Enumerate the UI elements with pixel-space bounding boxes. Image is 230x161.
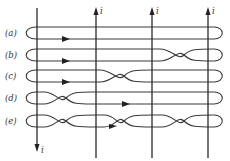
loop-label-d: (d): [5, 93, 17, 103]
loop-b: [26, 49, 222, 64]
arrow-up-icon: [150, 7, 155, 15]
arrow-up-icon: [94, 7, 99, 15]
loop-c: [26, 70, 222, 85]
arrow-right-icon: [62, 36, 70, 42]
arrow-right-icon: [62, 79, 70, 85]
loop-a: [26, 27, 222, 42]
loop-e: [26, 115, 222, 129]
current-label-3: i: [156, 6, 159, 16]
current-label-2: i: [100, 6, 103, 16]
arrow-right-icon: [62, 58, 70, 64]
arrow-down-icon: [35, 144, 40, 152]
current-loops-diagram: (a) (b) (c) (d) (e): [0, 0, 230, 161]
current-label-4: i: [212, 6, 215, 16]
current-label-1: i: [41, 145, 44, 155]
loop-label-c: (c): [5, 71, 16, 81]
loop-label-e: (e): [5, 116, 17, 126]
loop-label-b: (b): [5, 50, 17, 60]
arrow-up-icon: [206, 7, 211, 15]
loop-label-a: (a): [5, 28, 17, 38]
arrow-right-icon: [122, 101, 130, 107]
loop-d: [26, 92, 222, 107]
